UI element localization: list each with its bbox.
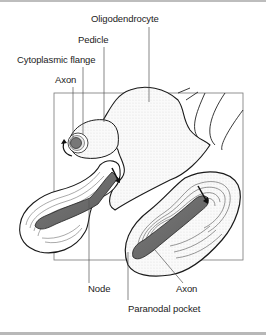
label-node: Node (88, 283, 110, 294)
label-oligodendrocyte: Oligodendrocyte (91, 13, 159, 24)
axon-cross-section-top (68, 133, 88, 153)
label-axon-bottom: Axon (176, 283, 197, 294)
oligodendrocyte-diagram (0, 0, 266, 335)
label-paranodal-pocket: Paranodal pocket (128, 303, 200, 314)
label-axon-top: Axon (55, 74, 76, 85)
label-pedicle: Pedicle (78, 34, 108, 45)
label-cytoplasmic-flange: Cytoplasmic flange (17, 54, 95, 65)
